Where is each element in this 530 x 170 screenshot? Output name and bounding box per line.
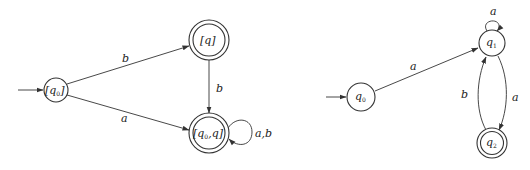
- state-label: [q]: [200, 34, 216, 47]
- state-s0[interactable]: [q0]: [44, 78, 68, 102]
- state-label: q: [355, 90, 362, 103]
- state-s1[interactable]: [q]: [189, 20, 229, 60]
- edge-s0-s2: [67, 95, 189, 130]
- diagram-canvas: b a b a,b [q0] [q] [q0,q]: [0, 0, 530, 170]
- edge-r2-r1: [478, 57, 486, 130]
- state-label: q: [486, 36, 493, 49]
- state-label: [q: [45, 84, 56, 97]
- edge-label-a: a: [512, 91, 519, 104]
- state-r0[interactable]: q0: [347, 83, 375, 111]
- edge-label-b: b: [122, 52, 129, 65]
- edge-label-b: b: [461, 88, 468, 101]
- right-dfa: a a a b q0 q1 q2: [326, 5, 519, 158]
- edge-r1-r2: [498, 56, 506, 130]
- state-r1[interactable]: q1: [479, 30, 505, 56]
- state-s2[interactable]: [q0,q]: [189, 113, 229, 153]
- svg-text:[q0]: [q0]: [45, 84, 65, 97]
- state-label: [q: [193, 127, 204, 140]
- svg-text:[q0,q]: [q0,q]: [193, 127, 224, 140]
- edge-label-a: a: [121, 112, 128, 125]
- edge-label-a: a: [410, 60, 417, 73]
- state-label: q: [486, 136, 493, 149]
- edge-label-ab: a,b: [255, 127, 272, 140]
- left-dfa: b a b a,b [q0] [q] [q0,q]: [18, 20, 272, 153]
- self-loop-s2: [228, 120, 252, 144]
- automata-svg: b a b a,b [q0] [q] [q0,q]: [0, 0, 530, 170]
- state-r2[interactable]: q2: [477, 128, 507, 158]
- edge-r0-r1: [375, 48, 478, 91]
- edge-label-a: a: [490, 5, 497, 18]
- edge-label-b: b: [216, 82, 223, 95]
